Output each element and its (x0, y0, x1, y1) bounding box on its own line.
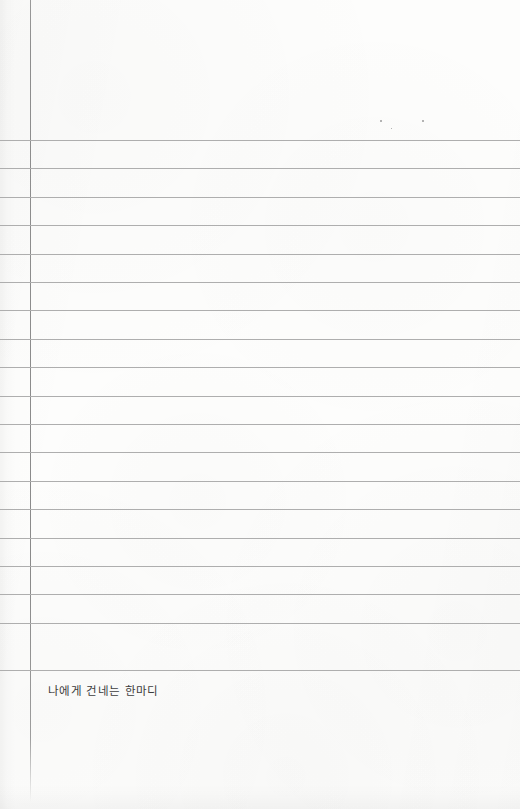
ruled-line (0, 197, 520, 198)
ruled-line (0, 225, 520, 226)
ruled-line (0, 339, 520, 340)
scan-speck (391, 128, 392, 129)
ruled-line (0, 538, 520, 539)
ruled-line (0, 254, 520, 255)
ruled-line (0, 670, 520, 671)
ruled-line (0, 396, 520, 397)
entry-label: 나에게 건네는 한마디 (48, 682, 159, 698)
scan-edge-shadow-left (0, 0, 16, 809)
ruled-line (0, 168, 520, 169)
ruled-line (0, 424, 520, 425)
ruled-line (0, 282, 520, 283)
ruled-line (0, 594, 520, 595)
scan-speck (422, 120, 424, 122)
ruled-line (0, 481, 520, 482)
ruled-line (0, 509, 520, 510)
scan-edge-shadow-bottom (0, 783, 520, 809)
ruled-line (0, 566, 520, 567)
ruled-line (0, 140, 520, 141)
notebook-page: 나에게 건네는 한마디 (0, 0, 520, 809)
margin-rule-line (30, 0, 31, 802)
ruled-line (0, 310, 520, 311)
ruled-line (0, 623, 520, 624)
scan-speck (380, 120, 382, 122)
ruled-line (0, 452, 520, 453)
ruled-line (0, 367, 520, 368)
